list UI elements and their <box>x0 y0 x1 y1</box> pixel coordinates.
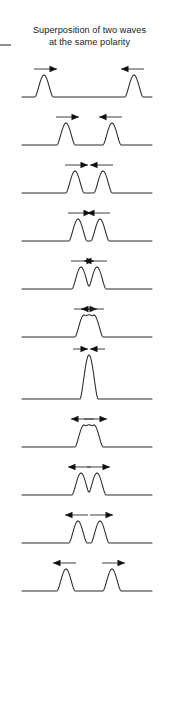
figure-title-line-1: Superposition of two waves <box>0 24 179 36</box>
wave-frame <box>0 106 179 154</box>
waveform-trace <box>22 425 152 447</box>
wave-frame <box>0 298 179 346</box>
waveform-trace <box>22 315 152 337</box>
wave-frame <box>0 456 179 504</box>
arrow-left-icon <box>53 560 61 566</box>
wave-frame <box>0 408 179 456</box>
wave-frame <box>0 346 179 408</box>
wave-frame <box>0 202 179 250</box>
wave-frame <box>0 154 179 202</box>
arrow-right-icon <box>50 66 58 72</box>
wave-frame <box>0 58 179 106</box>
arrow-left-icon <box>68 464 76 470</box>
arrow-right-icon <box>81 346 89 352</box>
waveform-trace <box>22 473 152 495</box>
waveform-trace <box>22 219 152 241</box>
arrow-left-icon <box>81 306 89 312</box>
arrow-left-icon <box>90 346 98 352</box>
wave-frame <box>0 552 179 600</box>
arrow-right-icon <box>72 114 80 120</box>
arrow-left-icon <box>87 210 95 216</box>
arrow-left-icon <box>71 416 79 422</box>
arrow-right-icon <box>81 162 89 168</box>
wave-superposition-figure: Superposition of two waves at the same p… <box>0 0 179 718</box>
arrow-left-icon <box>65 512 73 518</box>
waveform-trace <box>22 521 152 543</box>
waveform-trace <box>22 171 152 193</box>
wave-frame <box>0 504 179 552</box>
frame-sequence <box>0 58 179 600</box>
arrow-right-icon <box>106 512 114 518</box>
arrow-left-icon <box>99 114 107 120</box>
waveform-trace <box>22 355 152 399</box>
waveform-trace <box>22 267 152 289</box>
arrow-right-icon <box>103 464 111 470</box>
figure-title-line-2: at the same polarity <box>0 36 179 48</box>
waveform-trace <box>22 569 152 591</box>
waveform-trace <box>22 123 152 145</box>
arrow-left-icon <box>90 162 98 168</box>
waveform-trace <box>22 75 152 97</box>
arrow-left-icon <box>121 66 129 72</box>
arrow-right-icon <box>118 560 126 566</box>
wave-frame <box>0 250 179 298</box>
figure-title: Superposition of two waves at the same p… <box>0 24 179 48</box>
arrow-right-icon <box>100 416 108 422</box>
